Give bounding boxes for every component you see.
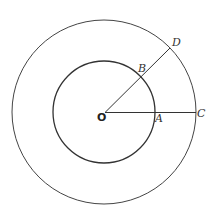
segment-od	[105, 48, 170, 113]
label-b: B	[137, 62, 146, 75]
label-c: C	[197, 107, 206, 120]
concentric-circles-diagram: O A B C D	[0, 0, 217, 220]
label-d: D	[171, 36, 181, 49]
label-a: A	[154, 112, 163, 125]
label-o: O	[97, 111, 106, 124]
